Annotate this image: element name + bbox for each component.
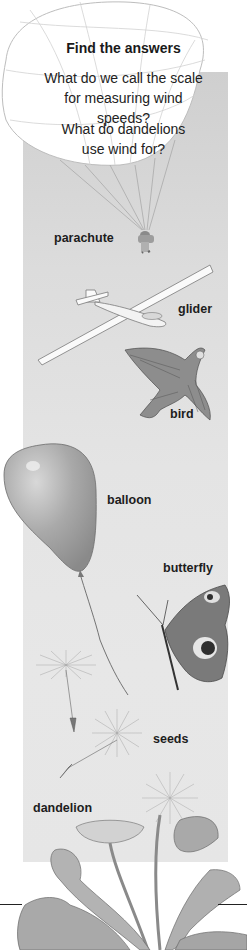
label-bird: bird (170, 407, 194, 421)
divider-line-right (218, 904, 247, 905)
question-2-text: What do dandelions use wind for? (61, 119, 186, 159)
butterfly-illustration (137, 585, 230, 690)
parachutist-illustration (138, 231, 154, 253)
bird-illustration (125, 348, 210, 420)
label-seeds: seeds (153, 732, 188, 746)
label-dandelion: dandelion (33, 801, 92, 815)
label-glider: glider (178, 302, 212, 316)
question-2: What do dandelions use wind for? (0, 119, 247, 159)
label-parachute: parachute (54, 231, 114, 245)
dandelion-plant-illustration (18, 772, 247, 950)
label-balloon: balloon (107, 493, 151, 507)
questions-heading: Find the answers (0, 40, 247, 56)
dandelion-seeds-illustration (36, 650, 142, 778)
label-butterfly: butterfly (163, 561, 213, 575)
divider-line-left (0, 904, 22, 905)
